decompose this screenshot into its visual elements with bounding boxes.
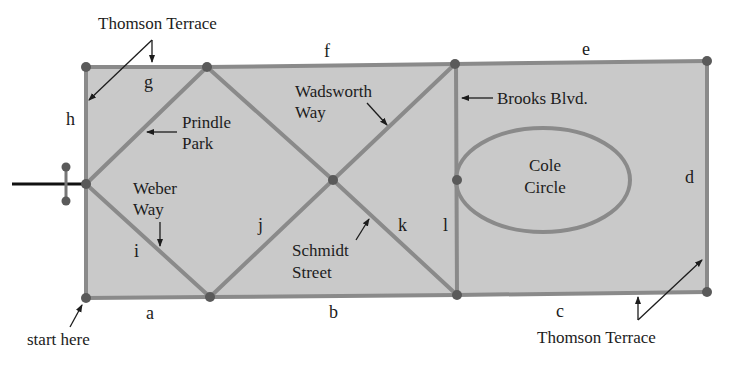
gate-node-top [62,163,71,172]
label-schmidt-line1: Schmidt [292,240,349,262]
edge-label-e: e [582,40,590,58]
node-start [81,293,91,303]
gate-node-bottom [62,197,71,206]
node [452,175,462,185]
edge-label-c: c [556,302,564,320]
edge-label-i: i [134,242,139,260]
node [81,62,91,72]
edge-label-l: l [443,216,448,234]
label-weber-line2: Way [133,199,177,220]
edge-label-j: j [258,216,263,234]
node [205,292,215,302]
label-wadsworth-line1: Wadsworth [295,81,372,102]
label-prindle-line2: Park [182,133,231,154]
edge-label-b: b [329,303,338,321]
street-edge-b [210,295,457,297]
edge-label-d: d [685,168,694,186]
node-center [328,175,338,185]
node [81,179,91,189]
label-wadsworth-line2: Way [295,102,372,123]
node [450,59,460,69]
node [702,287,712,297]
label-prindle-line1: Prindle [182,112,231,133]
label-weber-way: Weber Way [133,178,177,220]
label-cole-line2: Circle [510,177,580,199]
label-cole-circle: Cole Circle [510,155,580,199]
edge-label-f: f [324,42,330,60]
edge-label-k: k [398,216,407,234]
label-thomson-terrace-top: Thomson Terrace [98,14,217,33]
label-schmidt-street: Schmidt Street [292,240,349,284]
label-weber-line1: Weber [133,178,177,199]
edge-label-g: g [144,73,153,91]
label-schmidt-line2: Street [292,262,349,284]
street-edge-a [86,297,210,298]
label-cole-line1: Cole [510,155,580,177]
label-brooks-blvd: Brooks Blvd. [497,89,588,108]
node [702,56,712,66]
edge-label-h: h [66,110,75,128]
label-prindle-park: Prindle Park [182,112,231,154]
edge-label-a: a [146,304,154,322]
label-start-here: start here [27,330,90,349]
street-map [0,0,730,365]
node [452,290,462,300]
node [202,62,212,72]
label-thomson-terrace-bottom: Thomson Terrace [537,328,656,347]
arrow-start-icon [70,305,82,327]
label-wadsworth-way: Wadsworth Way [295,81,372,123]
